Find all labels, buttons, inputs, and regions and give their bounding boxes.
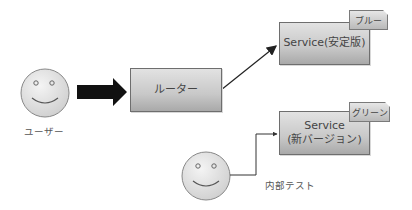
internal-to-green-connector	[230, 134, 277, 175]
service-blue-tag: ブルー	[349, 10, 388, 30]
router-to-blue-arrow	[221, 46, 276, 90]
internal-label: 内部テスト	[265, 178, 315, 192]
service-green-tag: グリーン	[349, 102, 390, 122]
user-smiley-icon	[21, 69, 69, 117]
service-blue-tag-label: ブルー	[355, 14, 382, 27]
service-green-label-line2: (新バージョン)	[287, 133, 362, 147]
user-label: ユーザー	[24, 124, 64, 138]
service-blue-label: Service(安定版)	[283, 36, 365, 50]
internal-smiley-icon	[182, 152, 230, 200]
thick-arrow-icon	[77, 78, 127, 106]
service-green-label-line1: Service	[304, 119, 345, 133]
router-label: ルーター	[154, 83, 198, 97]
router-box: ルーター	[130, 68, 222, 112]
service-green-tag-label: グリーン	[352, 106, 388, 119]
